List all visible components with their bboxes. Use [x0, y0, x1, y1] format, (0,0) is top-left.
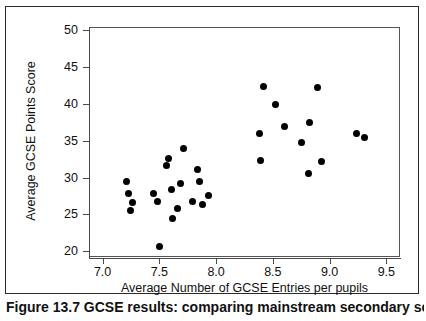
y-axis-tick: [83, 104, 89, 105]
y-axis-tick: [83, 67, 89, 68]
y-axis-tick: [83, 30, 89, 31]
scatter-point: [257, 157, 264, 164]
scatter-point: [196, 178, 203, 185]
figure-caption: Figure 13.7 GCSE results: comparing main…: [6, 300, 424, 315]
y-axis-title: Average GCSE Points Score: [24, 31, 38, 251]
scatter-point: [180, 145, 187, 152]
x-axis-tick-label: 8.5: [253, 266, 293, 279]
x-axis-line: [89, 258, 401, 259]
x-axis-tick: [330, 258, 331, 264]
x-axis-tick-label: 9.5: [366, 266, 406, 279]
y-axis-tick: [83, 178, 89, 179]
scatter-point: [125, 190, 132, 197]
scatter-point: [272, 101, 279, 108]
x-axis-tick: [216, 258, 217, 264]
y-axis-tick-label: 20: [48, 245, 78, 258]
scatter-point: [123, 178, 130, 185]
x-axis-tick-label: 8.0: [196, 266, 236, 279]
y-axis-tick-label: 35: [48, 135, 78, 148]
y-axis-tick-label: 50: [48, 24, 78, 37]
scatter-point: [205, 192, 212, 199]
y-axis-tick: [83, 251, 89, 252]
scatter-point: [281, 123, 288, 130]
scatter-point: [314, 84, 321, 91]
x-axis-tick: [273, 258, 274, 264]
x-axis-tick: [386, 258, 387, 264]
x-axis-tick-label: 9.0: [310, 266, 350, 279]
y-axis-tick-label: 40: [48, 98, 78, 111]
scatter-point: [256, 130, 263, 137]
y-axis-tick-label: 30: [48, 172, 78, 185]
y-axis-tick-label: 25: [48, 208, 78, 221]
x-axis-tick-label: 7.0: [83, 266, 123, 279]
plot-area-frame: [89, 27, 400, 257]
y-axis-tick: [83, 214, 89, 215]
scatter-point: [129, 199, 136, 206]
figure-container: 202530354045507.07.58.08.59.09.5 Average…: [0, 0, 426, 321]
x-axis-tick: [103, 258, 104, 264]
scatter-point: [318, 158, 325, 165]
y-axis-tick-label: 45: [48, 61, 78, 74]
x-axis-title: Average Number of GCSE Entries per pupil…: [89, 281, 400, 295]
y-axis-line: [89, 27, 90, 258]
scatter-point: [163, 162, 170, 169]
scatter-point: [154, 198, 161, 205]
x-axis-tick-label: 7.5: [139, 266, 179, 279]
x-axis-tick: [159, 258, 160, 264]
scatter-point: [298, 139, 305, 146]
y-axis-tick: [83, 141, 89, 142]
scatter-point: [305, 170, 312, 177]
scatter-point: [165, 155, 172, 162]
